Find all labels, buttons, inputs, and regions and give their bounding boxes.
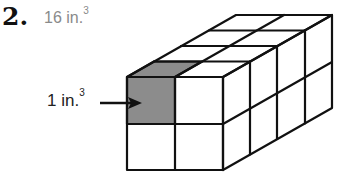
cube-prism-diagram xyxy=(0,0,343,186)
